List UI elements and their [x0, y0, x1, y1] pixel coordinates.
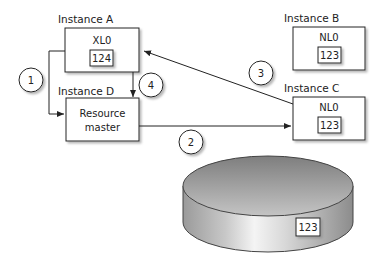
instance-a-box: XL0 124 [65, 28, 139, 72]
instance-b-value: 123 [320, 50, 339, 61]
instance-a-label: Instance A [58, 13, 114, 25]
disk-value: 123 [298, 222, 317, 233]
instance-a-lock: XL0 [93, 35, 112, 46]
instance-b-lock: NL0 [319, 32, 338, 43]
svg-text:3: 3 [258, 68, 264, 79]
instance-b-label: Instance B [284, 12, 339, 24]
instance-a-value: 124 [92, 53, 111, 64]
step-1-circle: 1 [19, 68, 43, 92]
instance-c-box: NL0 123 [293, 97, 365, 140]
step-3-circle: 3 [249, 61, 273, 85]
step-4-circle: 4 [139, 73, 163, 97]
instance-c-value: 123 [320, 120, 339, 131]
step-2-circle: 2 [179, 130, 203, 154]
instance-b-box: NL0 123 [293, 27, 365, 70]
disk-icon: 123 [183, 156, 353, 252]
diagram: Instance A XL0 124 Instance D Resource m… [0, 0, 384, 266]
instance-d-label: Instance D [58, 85, 114, 97]
svg-text:4: 4 [148, 80, 154, 91]
resource-master-line1: Resource [80, 108, 126, 119]
svg-text:2: 2 [188, 137, 194, 148]
arrow-step-1 [49, 51, 65, 114]
resource-master-line2: master [85, 122, 121, 133]
instance-c-lock: NL0 [319, 102, 338, 113]
instance-c-label: Instance C [284, 82, 339, 94]
svg-text:1: 1 [28, 75, 34, 86]
resource-master-box: Resource master [66, 98, 139, 141]
